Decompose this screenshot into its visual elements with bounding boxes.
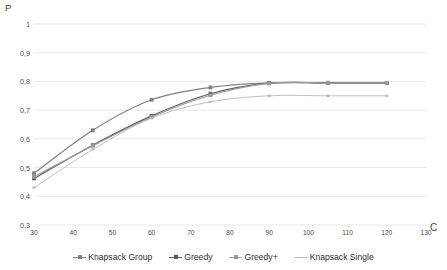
legend-swatch-icon — [169, 253, 182, 262]
series-lines — [32, 81, 389, 188]
legend-label: Greedy+ — [244, 252, 277, 262]
legend-item[interactable]: Knapsack Group — [73, 252, 152, 262]
data-point-marker — [209, 93, 213, 97]
legend-item[interactable]: Knapsack Single — [295, 252, 374, 262]
data-point-marker — [91, 128, 95, 132]
legend-swatch-icon — [229, 253, 242, 262]
data-point-marker — [267, 82, 271, 86]
data-point-marker — [385, 81, 389, 85]
chart-legend: Knapsack GroupGreedyGreedy+Knapsack Sing… — [0, 248, 447, 266]
series-line — [34, 95, 387, 187]
legend-swatch-icon — [295, 253, 308, 262]
data-point-marker — [32, 175, 36, 179]
data-point-marker — [150, 98, 154, 102]
chart-container: P C 0,30,40,50,60,70,80,91 3040506070809… — [0, 0, 447, 270]
gridlines — [34, 24, 426, 225]
data-point-marker — [209, 86, 213, 90]
plot-area — [0, 0, 447, 270]
data-point-marker — [326, 81, 330, 85]
legend-label: Knapsack Single — [310, 252, 374, 262]
legend-swatch-icon — [73, 253, 86, 262]
legend-item[interactable]: Greedy — [169, 252, 212, 262]
legend-item[interactable]: Greedy+ — [229, 252, 277, 262]
legend-label: Greedy — [184, 252, 212, 262]
legend-label: Knapsack Group — [88, 252, 152, 262]
data-point-marker — [32, 171, 36, 175]
data-point-marker — [91, 144, 95, 148]
